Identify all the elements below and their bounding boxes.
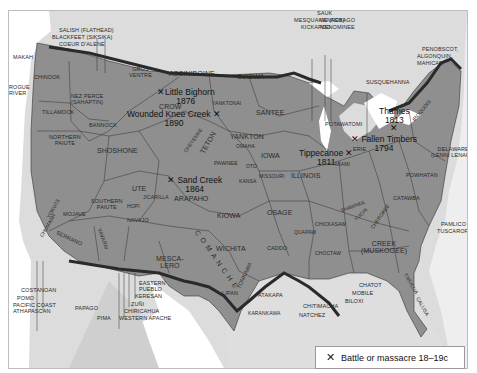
label-shoshone: SHOSHONE [97,147,138,154]
battle-thames: Thames1813✕ [379,107,410,133]
label-omaha: OMAHA [236,144,255,149]
label-catawba: CATAWBA [393,196,420,202]
label-keresan: KERESAN [135,294,162,300]
label-quapaw: QUAPAW [294,230,316,235]
label-biloxi: BILOXI [345,299,363,305]
label-chickasaw: CHICKASAW [315,222,346,227]
map-frame: MAKAH SALISH (FLATHEAD) BLACKFEET (SIKSI… [8,10,468,369]
map-canvas [9,11,467,368]
label-mobile: MOBILE [352,291,373,297]
label-pacific-coast-athapascan: PACIFIC COAST ATHAPASCAN [13,303,56,315]
label-illinois: ILLINOIS [291,172,321,179]
label-atakapa: ATAKAPA [258,293,283,299]
label-salish: SALISH (FLATHEAD) [59,28,114,34]
label-iowa: IOWA [261,152,280,159]
label-chitimacha: CHITIMACHA [303,304,338,310]
battle-x-icon: ✕ [390,123,398,133]
label-rogue-river: ROGUE RIVER [9,85,30,97]
label-creek: CREEK (MUSKOGEE) [361,240,407,255]
label-potawatomi: POTAWATOMI [325,122,362,128]
battle-x-icon: ✕ [351,134,359,144]
label-pomo: POMO [17,296,34,302]
battle-wounded-knee: Wounded Knee Creek ✕1890 [127,110,221,128]
label-mescalero: MESCA- LERO [156,255,184,270]
label-ojibwa: OJIBWA [237,73,264,80]
label-blackfeet: BLACKFEET (SIKSIKA) [52,35,112,41]
label-chinook: CHINOOK [34,75,60,81]
label-osage: OSAGE [267,209,292,216]
label-tillamook: TILLAMOOK [42,110,74,116]
label-assiniboine: ASSINIBOINE [169,70,215,77]
label-oto: OTO [246,164,257,169]
battle-little-bighorn: ✕Little Bighorn1876 [157,88,215,106]
label-northern-paiute: NORTHERN PAIUTE [49,135,81,147]
label-santee: SANTEE [256,109,285,116]
label-kansa: KANSA [239,179,256,184]
map-legend: ✕ Battle or massacre 18–19c [315,346,465,369]
label-tuscarora: TUSCARORA [437,229,468,235]
label-arapaho: ARAPAHO [174,195,208,202]
label-yankton: YANKTON [230,133,264,140]
label-southern-paiute: SOUTHERN PAIUTE [91,199,123,211]
label-hopi: HOPI [127,204,140,209]
label-gros-ventre: GROS VENTRE [129,67,152,79]
label-choctaw: CHOCTAW [315,251,341,256]
label-chatot: CHATOT [359,283,382,289]
label-chiricahua: CHIRICAHUA [124,309,159,315]
label-pamlico: PAMLICO [441,222,466,228]
label-eastern-pueblo: EASTERN PUEBLO [139,281,166,293]
label-karankawa: KARANKAWA [248,311,280,316]
label-ute: UTE [132,185,146,192]
label-makah: MAKAH [13,55,33,61]
label-jicarilla: JICARILLA [143,195,169,200]
label-delaware: DELAWARE (LENNI LENAPE) [431,147,468,159]
battle-x-icon: ✕ [157,87,165,97]
battle-x-icon: ✕ [326,351,335,364]
battle-sand-creek: ✕ Sand Creek1864 [167,176,222,194]
label-yanktonai: YANKTONAI [212,101,241,106]
battle-fallen-timbers: ✕ Fallen Timbers1794 [351,135,417,153]
label-missouri: MISSOURI [259,174,285,179]
label-nez-perce: NEZ PERCE (SAHAPTIN) [71,94,103,106]
label-coeur-dalene: COEUR D'ALENE [59,42,105,48]
label-caddo: CADDO [267,246,287,252]
battle-x-icon: ✕ [213,109,221,119]
label-kiowa: KIOWA [217,212,241,219]
label-menominee: MENOMINEE [320,25,355,31]
label-western-apache: WESTERN APACHE [119,316,171,322]
label-mojave: MOJAVE [63,212,86,218]
label-lipan: LIPAN [222,291,238,297]
battle-tippecanoe: Tippecanoe ✕1811 [299,149,353,167]
label-costanoan: COSTANOAN [21,288,56,294]
label-navajo: NAVAJO [127,218,149,224]
label-penobscot: PENOBSCOT, [422,47,458,53]
label-pima: PIMA [97,316,111,322]
label-powhatan: POWHATAN [406,173,438,179]
label-sauk: SAUK [317,11,332,17]
battle-x-icon: ✕ [167,175,175,185]
label-algonquin: ALGONQUIN, [417,54,453,60]
label-susquehanna: SUSQUEHANNA [366,80,410,86]
label-mahican: MAHICAN [417,61,443,67]
label-papago: PAPAGO [75,306,98,312]
label-zuni: ZUÑI [131,302,144,308]
label-natchez: NATCHEZ [299,313,325,319]
label-wichita: WICHITA [216,245,246,252]
label-winnebago: WINNEBAGO [320,18,355,24]
label-pawnee: PAWNEE [214,161,238,167]
label-bannock: BANNOCK [89,123,117,129]
legend-label: Battle or massacre 18–19c [341,353,448,363]
